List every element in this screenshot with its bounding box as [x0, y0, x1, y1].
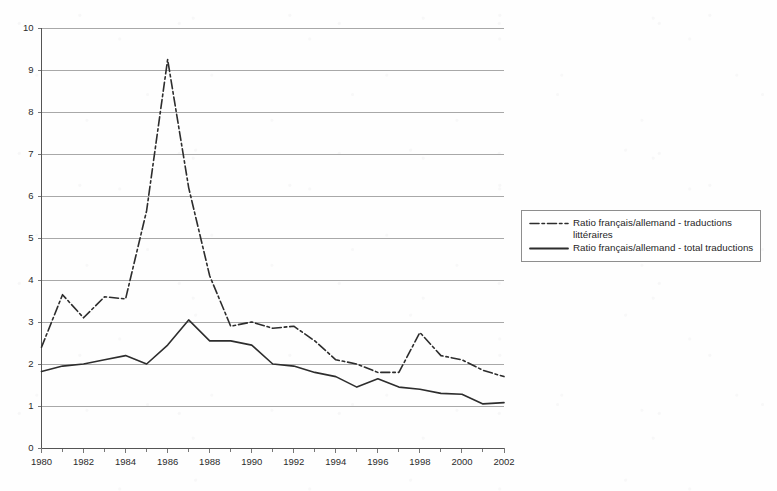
legend-label-literary-translations: Ratio français/allemand - traductions li… [573, 217, 732, 240]
legend-entry-total-translations: Ratio français/allemand - total traducti… [529, 242, 753, 254]
x-axis-tick-labels: 1980198219841986198819901992199419961998… [31, 456, 515, 467]
y-axis-tick-label: 3 [28, 316, 33, 327]
x-axis-tick-label: 2002 [493, 456, 514, 467]
y-axis-tick-label: 6 [28, 190, 33, 201]
series-line [42, 320, 505, 404]
x-axis-tick-label: 1996 [367, 456, 388, 467]
x-axis-tick-label: 1986 [157, 456, 178, 467]
solid-line-swatch [529, 243, 569, 254]
x-axis-tick-label: 1998 [409, 456, 430, 467]
x-axis-tick-label: 1980 [31, 456, 52, 467]
x-axis-tick-label: 2000 [451, 456, 472, 467]
data-series [42, 60, 505, 404]
y-axis-tick-label: 10 [23, 22, 34, 33]
y-axis-tick-labels: 012345678910 [23, 22, 34, 453]
y-axis-ticks [38, 28, 42, 448]
gridlines [42, 28, 505, 406]
y-axis-tick-label: 1 [28, 400, 33, 411]
x-axis-tick-label: 1992 [283, 456, 304, 467]
x-axis-ticks [42, 448, 505, 453]
y-axis-tick-label: 7 [28, 148, 33, 159]
x-axis-tick-label: 1984 [115, 456, 136, 467]
x-axis-tick-label: 1990 [241, 456, 262, 467]
chart-screenshot: 012345678910 198019821984198619881990199… [0, 0, 777, 491]
chart-legend: Ratio français/allemand - traductions li… [521, 210, 761, 262]
dash-dot-line-swatch [529, 218, 569, 229]
x-axis-tick-label: 1994 [325, 456, 346, 467]
y-axis-tick-label: 2 [28, 358, 33, 369]
legend-entry-literary-translations: Ratio français/allemand - traductions li… [529, 217, 732, 240]
y-axis-tick-label: 4 [28, 274, 33, 285]
x-axis-tick-label: 1988 [199, 456, 220, 467]
y-axis-tick-label: 9 [28, 64, 33, 75]
y-axis-tick-label: 8 [28, 106, 33, 117]
series-line [42, 60, 505, 377]
x-axis-tick-label: 1982 [73, 456, 94, 467]
y-axis-tick-label: 5 [28, 232, 33, 243]
legend-label-total-translations: Ratio français/allemand - total traducti… [573, 242, 753, 254]
y-axis-tick-label: 0 [28, 442, 33, 453]
